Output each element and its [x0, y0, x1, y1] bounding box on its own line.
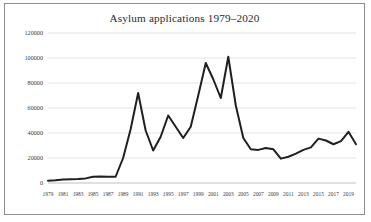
x-axis-tick-label: 2017: [328, 191, 339, 197]
y-axis-tick-label: 60000: [28, 104, 43, 111]
x-axis-tick-label: 1995: [163, 191, 174, 197]
y-axis-tick-label: 20000: [28, 154, 43, 161]
y-axis-tick-label: 40000: [28, 129, 43, 136]
x-axis-tick-label: 1981: [58, 191, 69, 197]
x-axis-tick-label: 2013: [298, 191, 309, 197]
y-axis-tick-label: 120000: [24, 29, 43, 36]
x-axis-tick-label: 2003: [223, 191, 234, 197]
x-axis-tick-label: 2001: [208, 191, 219, 197]
x-axis-tick-label: 2009: [268, 191, 279, 197]
x-axis-tick-label: 1979: [43, 191, 54, 197]
y-axis-tick-label: 0: [40, 179, 43, 186]
x-axis-tick-label: 1983: [73, 191, 84, 197]
x-axis-tick-label: 2019: [343, 191, 354, 197]
x-axis-tick-label: 1999: [193, 191, 204, 197]
x-axis-tick-label: 2015: [313, 191, 324, 197]
chart-frame: Asylum applications 1979–2020 0200004000…: [4, 3, 365, 215]
asylum-applications-series: [48, 57, 356, 181]
x-axis-tick-label: 2011: [283, 191, 294, 197]
line-chart-plot: 020000400006000080000100000120000 197919…: [5, 4, 366, 216]
y-axis-tick-label: 80000: [28, 79, 43, 86]
x-axis-tick-label: 1985: [88, 191, 99, 197]
x-axis-tick-labels: 1979198119831985198719891991199319951997…: [43, 191, 355, 197]
x-axis-tick-label: 1993: [148, 191, 159, 197]
y-axis-tick-label: 100000: [24, 54, 43, 61]
x-axis-tick-label: 1997: [178, 191, 189, 197]
y-axis-tick-labels: 020000400006000080000100000120000: [24, 29, 43, 186]
x-axis-tick-label: 2005: [238, 191, 249, 197]
x-axis-tick-label: 1991: [133, 191, 144, 197]
x-axis-tick-label: 1989: [118, 191, 129, 197]
gridlines-group: [48, 33, 356, 183]
x-axis-tick-label: 2007: [253, 191, 264, 197]
x-axis-tick-label: 1987: [103, 191, 114, 197]
